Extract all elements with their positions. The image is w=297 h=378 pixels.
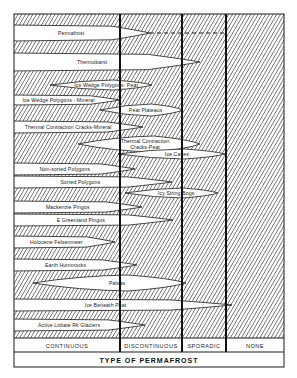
category-label: CONTINUOUS [46, 343, 89, 349]
category-label: NONE [246, 343, 264, 349]
feature-label: Peat Plateaus [129, 107, 163, 113]
feature-label: Earth Hummocks [45, 262, 86, 268]
feature-label: Ice Caves [165, 151, 189, 157]
feature-label: Palsas [109, 280, 125, 286]
feature-label: Mackenzie Pingos [46, 204, 90, 210]
category-label: SPORADIC [187, 343, 220, 349]
feature-label: Thermokarst [77, 59, 108, 65]
feature-label: Non-sorted Polygons [40, 166, 91, 172]
feature-label: Holocene Felsenmeer [30, 239, 83, 245]
feature-label: Thermal Contraction Cracks-Mineral [25, 124, 112, 130]
feature-label: Sorted Polygons [61, 179, 101, 185]
feature-label: Active Lobate Rk Glaciers [38, 322, 100, 328]
feature-label: Icy String Bogs [158, 190, 195, 196]
feature-label: Cracks-Peat [130, 144, 160, 150]
permafrost-diagram: PermafrostThermokarstIce Wedge Polygons-… [0, 0, 297, 378]
category-labels: CONTINUOUSDISCONTINUOUSSPORADICNONE [46, 343, 264, 349]
category-label: DISCONTINUOUS [124, 343, 177, 349]
feature-label: Ice Wedge Polygons- Peat [74, 82, 138, 88]
feature-label: Permafrost [58, 30, 85, 36]
feature-label: E Greenland Pingos [57, 217, 106, 223]
axis-title: TYPE OF PERMAFROST [100, 357, 199, 364]
feature-label: Ice Wedge Polygons - Mineral [23, 97, 95, 103]
